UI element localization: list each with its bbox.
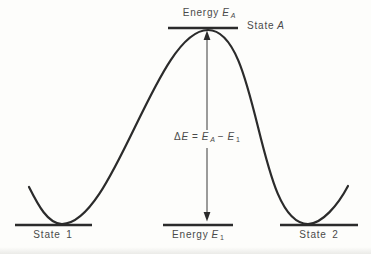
energy-ea-symbol: E (222, 7, 229, 18)
energy-e1-symbol: E (212, 229, 219, 240)
formula-ea-subscript: A (210, 136, 215, 143)
energy-ea-word: Energy (183, 7, 220, 18)
state-1-label: State 1 (14, 229, 92, 241)
energy-e1-word: Energy (172, 229, 209, 240)
state-a-word: State (247, 20, 274, 31)
energy-ea-subscript: A (231, 12, 236, 19)
state-a-label: StateA (247, 20, 285, 32)
energy-diagram: EnergyEA StateA ΔE=EA−E1 State 1 EnergyE… (0, 0, 371, 254)
delta-e-symbol: E (182, 131, 189, 142)
arrow-head-down-icon (204, 212, 211, 222)
delta-e-formula: ΔE=EA−E1 (160, 130, 254, 148)
formula-e1-subscript: 1 (236, 136, 240, 143)
arrow-head-up-icon (204, 31, 211, 41)
energy-curve (29, 30, 348, 224)
energy-e1-label: EnergyE1 (160, 229, 236, 244)
state-a-symbol: A (277, 20, 284, 31)
minus-sign: − (218, 131, 225, 142)
state-2-label: State 2 (280, 229, 358, 241)
formula-ea-symbol: E (202, 131, 209, 142)
energy-ea-label: EnergyEA (163, 7, 255, 22)
diagram-canvas (0, 0, 371, 254)
formula-e1-symbol: E (228, 131, 235, 142)
energy-e1-subscript: 1 (220, 234, 224, 241)
equals-sign: = (192, 131, 199, 142)
delta-symbol: Δ (174, 131, 181, 142)
